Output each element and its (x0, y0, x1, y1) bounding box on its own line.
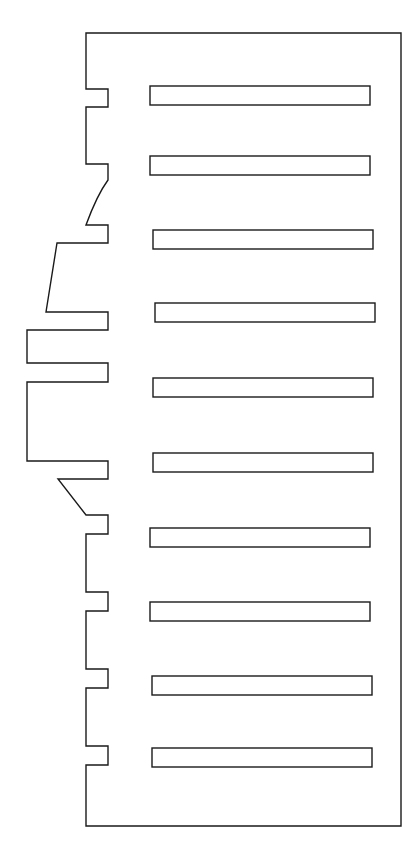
slot-rect (150, 86, 370, 105)
slot-rect (152, 676, 372, 695)
slot-rect (153, 453, 373, 472)
slot-rect (150, 528, 370, 547)
slot-rect (153, 378, 373, 397)
slot-rect (152, 748, 372, 767)
slot-rect (150, 602, 370, 621)
slot-rect (153, 230, 373, 249)
slot-rect (155, 303, 375, 322)
technical-drawing-svg (0, 0, 420, 849)
drawing-canvas (0, 0, 420, 849)
slot-rect (150, 156, 370, 175)
